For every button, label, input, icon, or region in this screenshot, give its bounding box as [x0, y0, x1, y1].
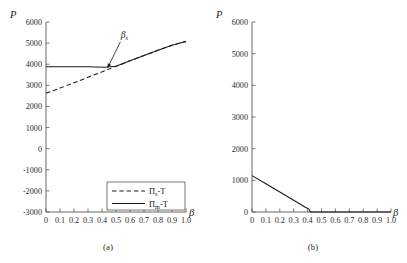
legend-label: Πs-T: [149, 187, 165, 197]
chart-a-x-axis-ticks: 00.10.20.30.40.50.60.70.80.91.0: [44, 209, 191, 226]
y-tick-label: 5000: [26, 39, 42, 48]
chart-b-y-axis-label: P: [215, 9, 223, 20]
chart-b-series-group: [252, 176, 391, 212]
chart-a-x-axis-label: β: [188, 207, 195, 218]
chart-panel-a: -3000-2000-10000100020003000400050006000…: [0, 0, 203, 263]
x-tick-label: 0.2: [69, 216, 79, 225]
chart-a-series-group: [46, 41, 186, 93]
y-tick-label: 6000: [232, 18, 248, 27]
chart-b-axis-frame: [252, 22, 391, 212]
y-tick-label: -3000: [23, 208, 42, 217]
y-tick-label: 1000: [26, 124, 42, 133]
y-tick-label: 2000: [26, 102, 42, 111]
x-tick-label: 0: [250, 216, 254, 225]
x-tick-label: 0.8: [153, 216, 163, 225]
chart-a-y-axis-label: P: [9, 9, 17, 20]
chart-a-y-axis-ticks: -3000-2000-10000100020003000400050006000: [23, 18, 50, 217]
chart-b-svg: 0100020003000400050006000 00.10.20.30.40…: [203, 0, 407, 263]
x-tick-label: 0.6: [125, 216, 135, 225]
chart-a-legend: Πs-TΠm-T: [107, 182, 185, 210]
x-tick-label: 0.8: [358, 216, 368, 225]
chart-a-svg: -3000-2000-10000100020003000400050006000…: [0, 0, 203, 263]
y-tick-label: 3000: [232, 113, 248, 122]
y-tick-label: 6000: [26, 18, 42, 27]
x-tick-label: 0.3: [83, 216, 93, 225]
series-line: [46, 41, 186, 67]
y-tick-label: -1000: [23, 166, 42, 175]
x-tick-label: 0.5: [316, 216, 326, 225]
x-tick-label: 0.3: [289, 216, 299, 225]
y-tick-label: 0: [38, 145, 42, 154]
y-tick-label: 3000: [26, 81, 42, 90]
annotation-arrow: [108, 42, 121, 68]
annotation-label: βs: [120, 30, 129, 41]
x-tick-label: 0.5: [111, 216, 121, 225]
x-tick-label: 0.4: [97, 216, 107, 225]
series-line: [252, 176, 391, 212]
series-line: [46, 41, 186, 93]
chart-panel-b: 0100020003000400050006000 00.10.20.30.40…: [203, 0, 407, 263]
x-tick-label: 0: [44, 216, 48, 225]
x-tick-label: 0.2: [275, 216, 285, 225]
y-tick-label: 4000: [26, 60, 42, 69]
chart-b-x-axis-label: β: [392, 207, 399, 218]
x-tick-label: 0.1: [55, 216, 65, 225]
y-tick-label: 1000: [232, 176, 248, 185]
y-tick-label: 2000: [232, 145, 248, 154]
y-tick-label: 5000: [232, 50, 248, 59]
chart-b-x-axis-ticks: 00.10.20.30.40.50.60.70.80.91.0: [250, 209, 396, 226]
x-tick-label: 0.6: [330, 216, 340, 225]
chart-a-caption: (a): [103, 242, 113, 252]
y-tick-label: 0: [244, 208, 248, 217]
chart-b-caption: (b): [308, 242, 319, 252]
y-tick-label: 4000: [232, 81, 248, 90]
figure-container: -3000-2000-10000100020003000400050006000…: [0, 0, 407, 263]
x-tick-label: 0.1: [261, 216, 271, 225]
legend-box: [107, 182, 185, 210]
x-tick-label: 0.7: [344, 216, 354, 225]
x-tick-label: 0.4: [302, 216, 312, 225]
y-tick-label: -2000: [23, 187, 42, 196]
x-tick-label: 0.7: [139, 216, 149, 225]
x-tick-label: 0.9: [372, 216, 382, 225]
x-tick-label: 0.9: [167, 216, 177, 225]
